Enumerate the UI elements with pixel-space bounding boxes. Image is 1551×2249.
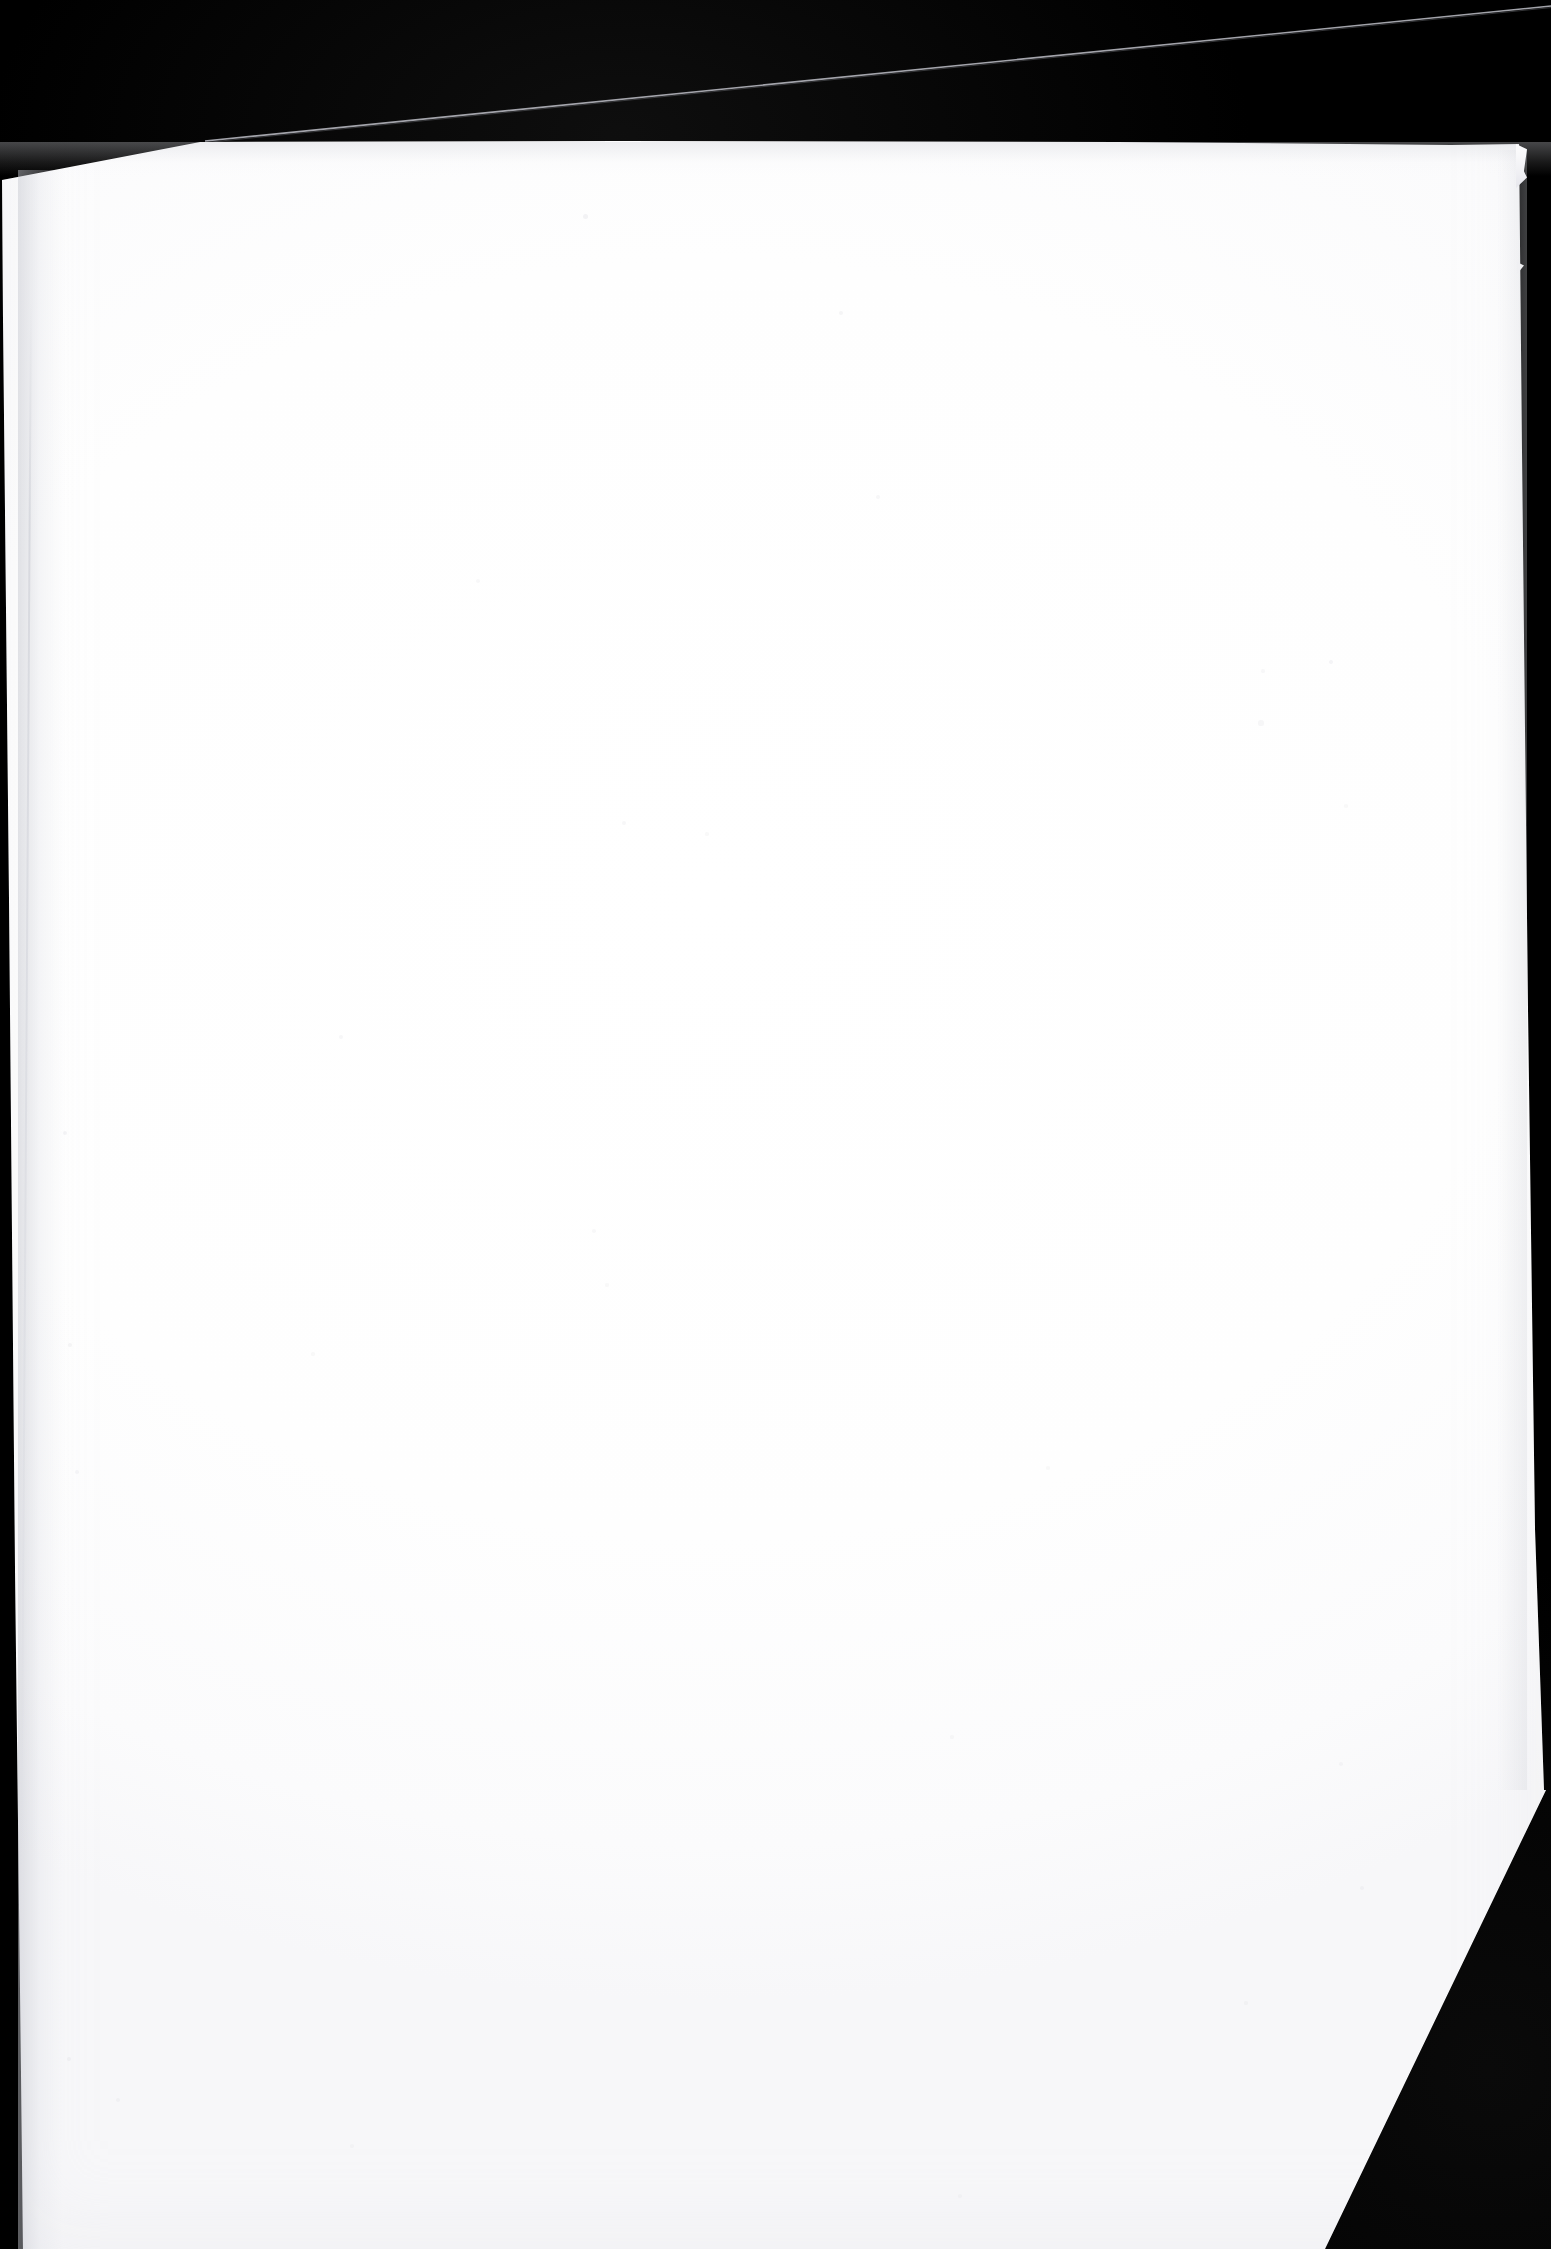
document-page xyxy=(0,0,1551,2249)
page-content-area xyxy=(0,0,1551,2249)
scanned-page-view: Blank scanned document page on black bac… xyxy=(0,0,1551,2249)
